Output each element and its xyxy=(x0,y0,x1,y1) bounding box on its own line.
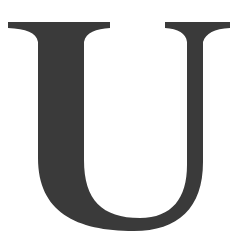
letter-u-shape xyxy=(8,22,230,231)
letter-canvas: U xyxy=(0,0,242,245)
serif-letter-u-glyph xyxy=(0,0,242,245)
